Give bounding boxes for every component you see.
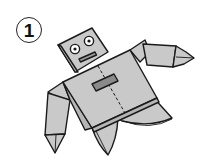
right-hand (173, 46, 194, 67)
right-pupil (87, 39, 90, 42)
left-pupil (73, 47, 76, 50)
right-arm (130, 40, 194, 67)
robot-illustration (0, 0, 203, 161)
right-upper-arm (143, 44, 176, 67)
left-upper-arm (45, 93, 70, 135)
origami-diagram: 1 (0, 0, 203, 161)
